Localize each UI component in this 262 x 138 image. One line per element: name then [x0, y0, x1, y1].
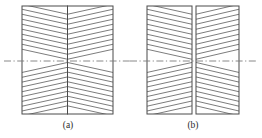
panel-b-hatch-line — [196, 91, 239, 101]
panel-a-hatch-line — [68, 101, 114, 111]
panel-b-hatch-line — [147, 29, 192, 39]
panel-b-hatch-line — [147, 9, 192, 19]
panel-b-hatching — [147, 4, 239, 116]
panel-b-hatch-line — [147, 91, 192, 101]
panel-b-hatch-line — [147, 19, 192, 29]
panel-b-hatch-line — [147, 44, 192, 54]
panel-b-hatch-line — [147, 62, 192, 72]
panel-b-hatch-line — [196, 29, 239, 39]
panel-a-hatch-line — [22, 91, 68, 101]
panel-b-hatch-line — [147, 82, 192, 92]
panel-a-hatch-line — [22, 34, 68, 44]
panel-a-hatch-line — [22, 29, 68, 39]
panel-a-hatch-line — [22, 62, 68, 72]
panel-b-hatch-line — [196, 34, 239, 44]
panel-a-hatch-line — [22, 19, 68, 29]
technical-figure: (a) (b) — [0, 0, 262, 138]
panel-b-hatch-line — [196, 14, 239, 24]
panel-a-hatch-line — [68, 34, 114, 44]
panel-a-hatch-line — [68, 19, 114, 29]
panel-b-hatch-line — [196, 49, 239, 59]
panel-a-hatch-line — [68, 29, 114, 39]
panel-a-hatch-line — [68, 44, 114, 54]
panel-a-hatch-line — [68, 87, 114, 97]
panel-b-hatch-line — [147, 39, 192, 49]
panel-b-hatch-line — [147, 96, 192, 106]
panel-b-hatch-line — [147, 87, 192, 97]
panel-b-hatch-line — [196, 101, 239, 111]
panel-b-hatch-line — [147, 101, 192, 111]
panel-a-hatch-line — [68, 67, 114, 77]
panel-b-hatch-line — [147, 77, 192, 87]
panel-b-hatch-line — [147, 34, 192, 44]
panel-a-hatch-line — [68, 91, 114, 101]
panel-a-hatch-line — [22, 14, 68, 24]
panel-a-hatch-line — [22, 67, 68, 77]
panel-b — [130, 4, 258, 116]
figure-container: (a) (b) — [0, 0, 262, 138]
panel-a-hatch-line — [22, 72, 68, 82]
panel-a-hatch-line — [68, 49, 114, 59]
panel-a-hatch-line — [22, 49, 68, 59]
panel-a-hatch-line — [22, 87, 68, 97]
panel-b-hatch-line — [196, 44, 239, 54]
panel-b-hatch-line — [196, 24, 239, 34]
panel-a-hatch-line — [22, 39, 68, 49]
panel-b-hatch-line — [196, 39, 239, 49]
panel-a-hatch-line — [22, 77, 68, 87]
panel-b-hatch-line — [196, 87, 239, 97]
panel-b-hatch-line — [196, 67, 239, 77]
panel-a-hatch-line — [68, 82, 114, 92]
panel-a-hatch-line — [68, 77, 114, 87]
panel-b-hatch-line — [147, 72, 192, 82]
caption-b: (b) — [187, 120, 198, 131]
caption-a: (a) — [63, 120, 74, 131]
panel-b-hatch-line — [147, 24, 192, 34]
panel-b-hatch-line — [147, 14, 192, 24]
panel-b-hatch-line — [196, 62, 239, 72]
panel-a-hatch-line — [22, 9, 68, 19]
panel-a-hatch-line — [22, 101, 68, 111]
panel-a-hatch-line — [22, 82, 68, 92]
panel-b-hatch-line — [147, 49, 192, 59]
panel-a — [4, 4, 131, 116]
panel-a-hatch-line — [68, 24, 114, 34]
panel-b-hatch-line — [196, 82, 239, 92]
panel-a-hatch-line — [22, 96, 68, 106]
panel-a-hatch-line — [68, 39, 114, 49]
panel-a-hatch-line — [68, 72, 114, 82]
panel-b-hatch-line — [196, 96, 239, 106]
panel-b-hatch-line — [196, 72, 239, 82]
panel-b-hatch-line — [196, 77, 239, 87]
panel-a-hatch-line — [68, 96, 114, 106]
panel-a-hatch-line — [22, 24, 68, 34]
panel-a-hatch-line — [68, 14, 114, 24]
panel-a-hatch-line — [68, 9, 114, 19]
panel-a-hatch-line — [22, 44, 68, 54]
panel-b-hatch-line — [147, 67, 192, 77]
panel-a-hatch-line — [68, 62, 114, 72]
panel-b-hatch-line — [196, 19, 239, 29]
panel-b-hatch-line — [196, 9, 239, 19]
